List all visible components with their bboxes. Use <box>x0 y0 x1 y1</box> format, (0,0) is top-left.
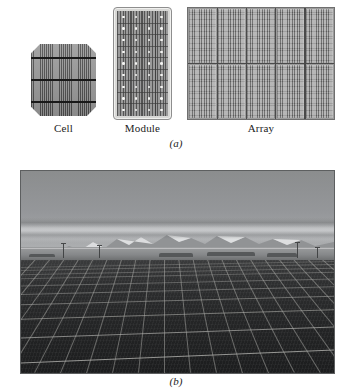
module-solder-dot <box>135 109 138 112</box>
array-module <box>247 9 274 63</box>
module-cell-divider-h5 <box>117 69 168 70</box>
array-module <box>189 9 216 63</box>
label-module: Module <box>105 122 180 134</box>
photo-utility-pole-2 <box>99 245 100 258</box>
module-cell-divider-v3 <box>155 11 156 116</box>
photo-treeline-left <box>29 254 55 257</box>
module-solder-dot <box>135 74 138 77</box>
photo-cloud-band-lower <box>21 231 334 239</box>
cell-busbar-middle <box>31 79 96 81</box>
module-solder-dot <box>160 97 163 100</box>
module-solder-dot <box>122 39 125 42</box>
cell-busbar-bottom <box>31 101 96 103</box>
module-cell-divider-h4 <box>117 57 168 58</box>
photo-panel-field <box>21 260 334 373</box>
module-solder-dot <box>148 74 151 77</box>
array-module <box>189 65 216 119</box>
module-cell-divider-h3 <box>117 46 168 47</box>
photo-treeline-right <box>207 252 255 256</box>
module-solder-dot <box>135 27 138 30</box>
module-solder-dot <box>160 27 163 30</box>
module-solder-dot <box>160 51 163 54</box>
module-solder-dot <box>148 16 151 19</box>
module-solder-dot <box>122 86 125 89</box>
photo-treeline-far-right <box>267 253 297 257</box>
array-module <box>306 9 333 63</box>
module-solder-dot <box>148 109 151 112</box>
photo-utility-pole-4 <box>317 247 318 258</box>
module-solder-dot <box>122 74 125 77</box>
photo-panel-column-edge <box>164 260 165 373</box>
photo-treeline-center <box>159 253 193 257</box>
diagram-module <box>113 7 172 120</box>
module-solder-dot <box>135 51 138 54</box>
array-module <box>247 65 274 119</box>
diagram-array <box>187 7 335 120</box>
module-solder-dot <box>148 27 151 30</box>
diagram-cell <box>31 44 96 116</box>
array-module <box>218 65 245 119</box>
module-solder-dot <box>160 74 163 77</box>
module-solder-dot <box>135 97 138 100</box>
array-module <box>277 9 304 63</box>
module-solder-dot <box>122 97 125 100</box>
module-solder-dot <box>122 51 125 54</box>
module-solder-dot <box>148 39 151 42</box>
module-cell-divider-v1 <box>130 11 131 116</box>
figure-panel-b: (b) <box>0 152 352 389</box>
module-solder-dot <box>148 97 151 100</box>
module-cell-divider-h6 <box>117 80 168 81</box>
photo-horizon-line <box>21 248 334 249</box>
array-separator-h1 <box>188 63 334 64</box>
module-solder-dot <box>160 39 163 42</box>
module-cell-divider-v2 <box>142 11 143 116</box>
module-solder-dot <box>122 62 125 65</box>
module-solder-dot <box>122 27 125 30</box>
module-cell-divider-h2 <box>117 34 168 35</box>
module-solder-dot <box>135 39 138 42</box>
solar-farm-photograph <box>20 170 335 374</box>
label-cell: Cell <box>31 122 96 134</box>
module-solder-dot <box>148 51 151 54</box>
module-cell-divider-h7 <box>117 92 168 93</box>
array-module <box>277 65 304 119</box>
module-solder-dot <box>122 109 125 112</box>
label-array: Array <box>187 122 335 134</box>
module-solder-dot <box>135 16 138 19</box>
array-module <box>306 65 333 119</box>
module-solder-dot <box>148 86 151 89</box>
array-frame <box>187 7 335 120</box>
caption-panel-a: (a) <box>0 137 352 149</box>
photo-cloud-band-upper <box>21 217 334 228</box>
photo-utility-pole-1 <box>63 243 64 258</box>
caption-panel-b: (b) <box>0 375 352 387</box>
figure-panel-a: Cell Module Array (a) <box>0 0 352 152</box>
module-solder-dot <box>148 62 151 65</box>
module-cell-divider-h8 <box>117 103 168 104</box>
module-solder-dot <box>135 62 138 65</box>
array-module <box>218 9 245 63</box>
module-laminate <box>117 11 168 116</box>
module-cell-divider-h1 <box>117 23 168 24</box>
module-solder-dot <box>160 62 163 65</box>
module-solder-dot <box>160 109 163 112</box>
module-solder-dot <box>160 16 163 19</box>
module-solder-dot <box>122 16 125 19</box>
module-solder-dot <box>135 86 138 89</box>
photo-utility-pole-3 <box>297 242 298 258</box>
cell-busbar-top <box>31 57 96 59</box>
module-solder-dot <box>160 86 163 89</box>
